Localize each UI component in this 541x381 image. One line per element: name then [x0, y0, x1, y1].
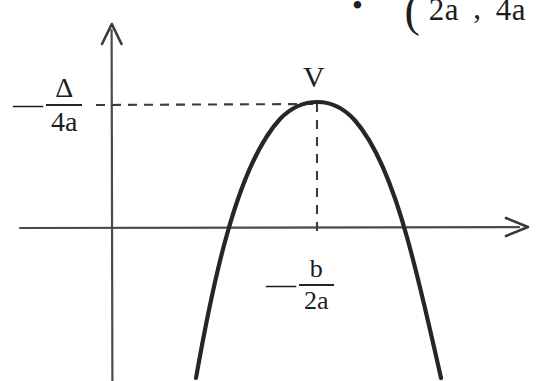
vertex-horizontal-guide: [96, 104, 317, 105]
x-value-expression: — b 2a: [266, 256, 334, 314]
fraction-delta-4a: Δ 4a: [46, 74, 82, 136]
fraction-b-2a: b 2a: [299, 256, 334, 314]
fragment-stray-mark: •: [352, 0, 363, 23]
fraction-denominator: 4a: [46, 104, 82, 137]
vertex-label: V: [303, 62, 325, 92]
y-axis-line: [112, 30, 113, 381]
fraction-denominator: 2a: [299, 284, 334, 315]
x-value-label: — b 2a: [266, 256, 334, 314]
fragment-separator: ,: [467, 0, 487, 25]
parabola-canvas: [0, 0, 541, 381]
y-value-label: — Δ 4a: [13, 74, 82, 136]
fragment-first-term: 2a: [429, 0, 459, 27]
y-value-expression: — Δ 4a: [13, 74, 82, 136]
parabola-curve: [196, 102, 441, 378]
x-axis-line: [20, 227, 519, 228]
fragment-open-paren: (: [405, 0, 421, 36]
fragment-second-term: 4a: [496, 0, 526, 27]
fraction-numerator: b: [305, 256, 328, 284]
parabola-figure: — Δ 4a — b 2a V • ( 2a , 4a: [0, 0, 541, 381]
y-axis: [102, 24, 122, 381]
cropped-formula-fragment: • ( 2a , 4a: [352, 0, 526, 28]
minus-sign-icon: —: [266, 278, 296, 290]
minus-sign-icon: —: [13, 98, 43, 110]
x-axis: [20, 218, 528, 236]
fraction-numerator: Δ: [50, 74, 78, 104]
